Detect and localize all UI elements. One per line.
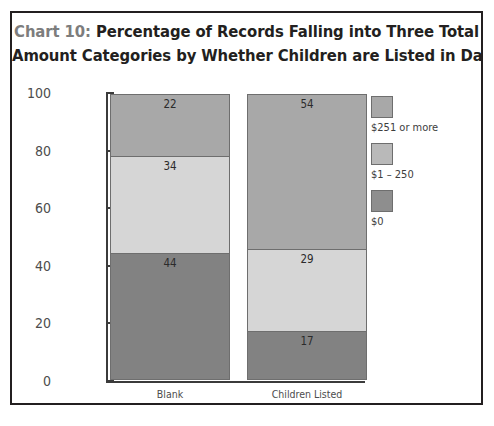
y-tick-label-20: 20 bbox=[11, 316, 51, 330]
bar-segment-label: 34 bbox=[111, 160, 229, 172]
y-axis-line bbox=[106, 92, 108, 382]
legend-entry-251-or-more[interactable]: $251 or more bbox=[371, 96, 481, 134]
chart-frame: Chart 10: Percentage of Records Falling … bbox=[10, 11, 483, 405]
chart-title-line-1-rest: Percentage of Records Falling into Three… bbox=[91, 22, 479, 41]
legend-swatch-1-250 bbox=[371, 143, 393, 165]
y-tick-label-0: 0 bbox=[11, 374, 51, 388]
y-tick-label-80: 80 bbox=[11, 144, 51, 158]
x-tick-label-children-listed: Children Listed bbox=[227, 388, 387, 400]
legend: $251 or more $1 – 250 $0 bbox=[371, 96, 481, 237]
legend-label-1-250: $1 – 250 bbox=[371, 168, 481, 181]
chart-title-line-2: Amount Categories by Whether Children ar… bbox=[12, 44, 481, 68]
bar-segment-blank-1-250[interactable]: 34 bbox=[110, 156, 230, 254]
bar-segment-label: 17 bbox=[248, 335, 366, 347]
bar-segment-label: 44 bbox=[111, 257, 229, 269]
bar-segment-blank-0[interactable]: 44 bbox=[110, 253, 230, 380]
legend-label-0: $0 bbox=[371, 215, 481, 228]
bar-stack-blank[interactable]: 22 34 44 bbox=[110, 94, 230, 380]
y-tick-label-40: 40 bbox=[11, 259, 51, 273]
legend-swatch-251-or-more bbox=[371, 96, 393, 118]
legend-entry-0[interactable]: $0 bbox=[371, 190, 481, 228]
bar-segment-children-listed-1-250[interactable]: 29 bbox=[247, 249, 367, 333]
bar-segment-blank-251-or-more[interactable]: 22 bbox=[110, 94, 230, 157]
plot-area: 100 80 60 40 20 0 22 34 44 54 bbox=[59, 92, 365, 382]
x-tick-label-blank: Blank bbox=[90, 388, 250, 400]
chart-title-prefix: Chart 10: bbox=[14, 22, 91, 41]
legend-swatch-0 bbox=[371, 190, 393, 212]
bar-segment-label: 22 bbox=[111, 98, 229, 110]
bar-segment-children-listed-0[interactable]: 17 bbox=[247, 331, 367, 380]
legend-label-251-or-more: $251 or more bbox=[371, 121, 481, 134]
y-tick-label-100: 100 bbox=[11, 86, 51, 100]
bar-stack-children-listed[interactable]: 54 29 17 bbox=[247, 94, 367, 380]
legend-entry-1-250[interactable]: $1 – 250 bbox=[371, 143, 481, 181]
chart-title: Chart 10: Percentage of Records Falling … bbox=[12, 20, 481, 68]
bar-segment-label: 54 bbox=[248, 98, 366, 110]
bar-segment-children-listed-251-or-more[interactable]: 54 bbox=[247, 94, 367, 250]
x-axis-line bbox=[106, 381, 365, 383]
y-tick-mark-0 bbox=[106, 380, 114, 382]
bar-segment-label: 29 bbox=[248, 253, 366, 265]
y-tick-label-60: 60 bbox=[11, 201, 51, 215]
